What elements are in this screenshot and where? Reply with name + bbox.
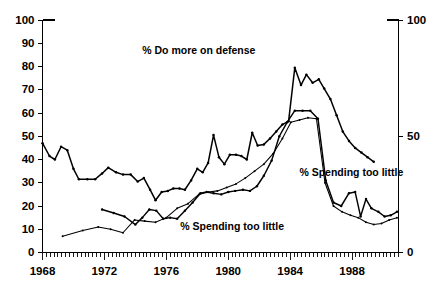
data-point <box>223 163 226 166</box>
data-point <box>149 188 152 191</box>
y-axis-left-labels: 0102030405060708090100 <box>15 14 34 259</box>
data-point <box>41 142 44 145</box>
data-point <box>305 73 308 76</box>
data-point <box>244 177 246 179</box>
data-point <box>154 221 156 223</box>
data-point <box>350 214 352 216</box>
data-point <box>263 143 266 146</box>
data-point <box>198 193 200 195</box>
data-point <box>365 221 367 223</box>
data-point <box>318 78 321 81</box>
data-point <box>240 155 243 158</box>
y-axis-right-tick-label: 50 <box>407 130 420 142</box>
data-point <box>229 154 232 157</box>
data-point <box>256 185 258 187</box>
x-axis-tick-label: 1976 <box>154 265 180 277</box>
y-axis-left-tick-label: 20 <box>22 200 35 212</box>
data-point <box>311 82 314 85</box>
data-point <box>324 182 326 184</box>
data-point <box>332 205 334 207</box>
data-point <box>290 121 292 123</box>
data-point <box>97 226 99 228</box>
data-point <box>246 158 249 161</box>
data-point <box>269 137 272 140</box>
data-point <box>101 208 103 210</box>
data-point <box>94 178 97 181</box>
data-point <box>263 163 265 165</box>
data-point <box>60 145 63 148</box>
data-point <box>136 180 139 183</box>
data-point <box>227 191 229 193</box>
data-point <box>270 159 272 161</box>
x-axis-ticks <box>43 253 399 261</box>
data-point <box>165 217 167 219</box>
data-point <box>110 228 112 230</box>
data-point <box>372 161 375 164</box>
x-axis-tick-label: 1984 <box>277 265 303 277</box>
data-point <box>388 219 390 221</box>
defense-label: % Do more on defense <box>142 44 255 56</box>
data-point <box>54 158 57 161</box>
data-point <box>366 156 369 159</box>
data-point <box>176 218 178 220</box>
data-point <box>396 217 398 219</box>
data-point <box>380 222 382 224</box>
data-point <box>309 109 311 111</box>
data-point <box>154 199 157 202</box>
x-axis-tick-label: 1972 <box>92 265 118 277</box>
y-axis-left-tick-label: 50 <box>22 130 35 142</box>
y-axis-left-tick-label: 60 <box>22 107 35 119</box>
x-axis-labels: 196819721976198019841988 <box>30 265 366 277</box>
data-point <box>298 119 300 121</box>
data-point <box>294 66 297 69</box>
data-point <box>396 211 398 213</box>
data-point <box>191 201 193 203</box>
y-axis-right-tick-label: 0 <box>407 246 413 258</box>
data-point <box>184 188 187 191</box>
data-point <box>122 173 125 176</box>
y-axis-left-tick-label: 0 <box>28 246 34 258</box>
data-point <box>370 207 372 209</box>
data-point <box>115 171 118 174</box>
data-point <box>275 130 278 133</box>
data-point <box>354 191 356 193</box>
data-point <box>207 191 209 193</box>
data-point <box>281 138 283 140</box>
data-point <box>212 134 215 137</box>
data-point <box>278 135 280 137</box>
data-point <box>341 211 343 213</box>
data-point <box>178 187 181 190</box>
data-point <box>335 114 338 117</box>
data-point <box>176 207 178 209</box>
x-axis-tick-label: 1968 <box>30 265 56 277</box>
y-axis-left-tick-label: 40 <box>22 153 35 165</box>
data-point <box>286 121 288 123</box>
data-point <box>113 212 115 214</box>
data-point <box>249 190 251 192</box>
data-point <box>143 177 146 180</box>
data-point <box>342 130 345 133</box>
data-point <box>101 172 104 175</box>
data-point <box>66 149 69 152</box>
data-point <box>167 190 170 193</box>
x-axis-tick-label: 1988 <box>339 265 365 277</box>
data-point <box>187 203 189 205</box>
data-point <box>365 198 367 200</box>
data-point <box>281 123 284 126</box>
y-axis-right-ticks <box>399 20 404 253</box>
data-point <box>134 219 136 221</box>
data-point <box>357 217 359 219</box>
data-point <box>242 189 244 191</box>
data-point <box>234 190 236 192</box>
data-point <box>160 191 163 194</box>
y-axis-left-tick-label: 10 <box>22 223 35 235</box>
data-point <box>212 192 214 194</box>
data-point <box>300 84 303 87</box>
chart-container: 0102030405060708090100 050100 1968197219… <box>0 0 441 288</box>
data-point <box>348 192 350 194</box>
data-point <box>354 147 357 150</box>
data-point <box>251 132 254 135</box>
data-point <box>201 171 204 174</box>
data-point <box>129 173 132 176</box>
data-point <box>383 215 385 217</box>
